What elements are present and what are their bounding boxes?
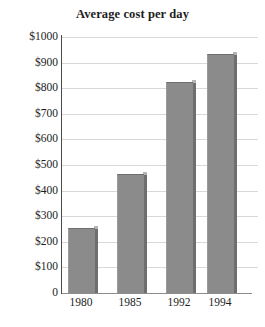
- bar-body: [68, 228, 95, 293]
- y-axis-tick-label: 0: [2, 287, 58, 299]
- y-axis-tick-label: $500: [2, 159, 58, 171]
- y-axis-tick-labels: $1000 $900 $800 $700 $600 $500 $400 $300…: [0, 0, 58, 327]
- bar-body: [166, 82, 193, 293]
- y-axis-tick-label: $1000: [2, 31, 58, 43]
- bar-body: [117, 174, 144, 293]
- gridline: [62, 37, 258, 38]
- y-axis-tick-label: $400: [2, 185, 58, 197]
- bar-body: [207, 54, 234, 293]
- y-axis-tick-label: $900: [2, 57, 58, 69]
- y-axis-tick-label: $200: [2, 236, 58, 248]
- y-axis-tick-label: $300: [2, 210, 58, 222]
- y-axis-tick-label: $100: [2, 261, 58, 273]
- y-axis-tick-label: $800: [2, 82, 58, 94]
- bar-chart: Average cost per day $1000 $900 $800 $70…: [0, 0, 265, 327]
- x-axis-tick-label: 1992: [156, 297, 202, 309]
- y-axis-tick-label: $700: [2, 108, 58, 120]
- x-axis-tick-label: 1985: [107, 297, 153, 309]
- x-axis-tick-labels: 1980 1985 1992 1994: [62, 297, 258, 319]
- x-axis-tick-label: 1980: [58, 297, 104, 309]
- plot-area: [62, 37, 258, 293]
- y-axis-tick-label: $600: [2, 133, 58, 145]
- x-axis-tick-label: 1994: [197, 297, 243, 309]
- x-axis-line: [62, 293, 252, 294]
